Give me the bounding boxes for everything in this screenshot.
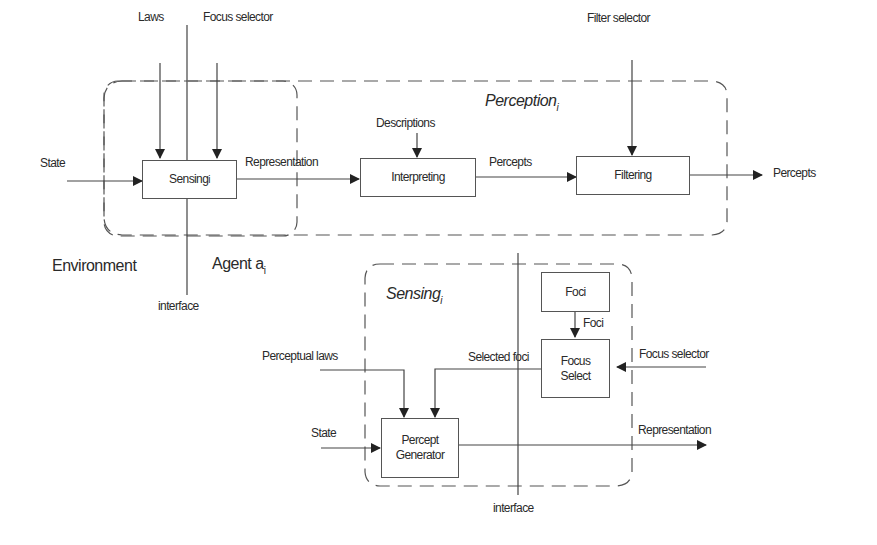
interpreting-box: Interpreting: [360, 158, 476, 197]
descriptions-label: Descriptions: [376, 116, 435, 130]
representation-label: Representation: [245, 155, 318, 169]
selected-foci-label: Selected foci: [468, 350, 529, 364]
environment-label: Environment: [52, 257, 136, 275]
sensing-box: Sensingi: [142, 160, 237, 199]
state-label: State: [40, 156, 65, 170]
percepts-output-label: Percepts: [773, 166, 816, 180]
foci-edge-label: Foci: [583, 316, 603, 330]
agent-label: Agent ai: [212, 255, 265, 276]
percept-generator-box: PerceptGenerator: [381, 418, 459, 478]
foci-box: Foci: [541, 272, 610, 312]
perceptual-laws-label: Perceptual laws: [262, 349, 338, 363]
filter-selector-label: Filter selector: [587, 11, 650, 25]
laws-label: Laws: [138, 10, 164, 24]
focus-selector-label: Focus selector: [203, 10, 273, 24]
focus-select-box: FocusSelect: [541, 339, 610, 398]
state-label-bottom: State: [311, 426, 336, 440]
focus-selector-label-bottom: Focus selector: [639, 347, 709, 361]
interface-label-bottom: interface: [493, 501, 534, 515]
interface-label-top: interface: [158, 299, 199, 313]
representation-label-bottom: Representation: [638, 423, 711, 437]
filtering-box: Filtering: [576, 156, 690, 195]
percepts-label: Percepts: [489, 155, 532, 169]
sensing-title: Sensingi: [386, 285, 442, 306]
perception-title: Perceptioni: [485, 92, 558, 113]
